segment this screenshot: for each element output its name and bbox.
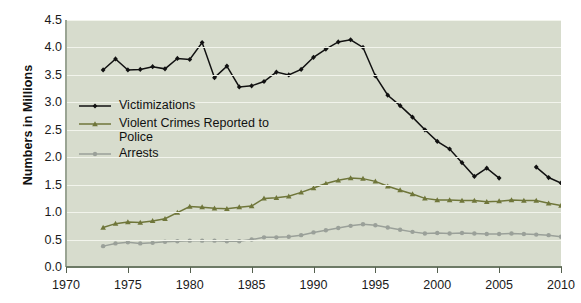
x-tick-mark: [561, 267, 562, 273]
x-tick-label: 2000: [423, 278, 451, 292]
legend-label: Violent Crimes Reported to Police: [119, 116, 284, 144]
x-tick-label: 1995: [361, 278, 389, 292]
x-tick-mark: [252, 267, 253, 273]
x-tick-label: 2005: [485, 278, 513, 292]
x-tick-mark: [499, 267, 500, 273]
x-tick-mark: [375, 267, 376, 273]
x-tick-label: 2010: [547, 278, 575, 292]
x-tick-label: 1980: [176, 278, 204, 292]
x-tick-mark: [128, 267, 129, 273]
chart-root: Numbers in Millions 0.00.51.01.52.02.53.…: [0, 0, 581, 303]
legend-swatch-icon: [78, 98, 112, 114]
x-tick-label: 1985: [238, 278, 266, 292]
legend-label: Victimizations: [119, 98, 195, 112]
data-point-marker: [93, 103, 98, 108]
x-tick-mark: [437, 267, 438, 273]
legend-item: Arrests: [78, 146, 284, 162]
legend-label: Arrests: [119, 146, 159, 160]
x-tick-label: 1990: [300, 278, 328, 292]
legend-item: Violent Crimes Reported to Police: [78, 116, 284, 144]
x-tick-mark: [190, 267, 191, 273]
x-tick-label: 1970: [52, 278, 80, 292]
x-tick-label: 1975: [114, 278, 142, 292]
chart-legend: VictimizationsViolent Crimes Reported to…: [78, 98, 284, 164]
legend-item: Victimizations: [78, 98, 284, 114]
legend-swatch-icon: [78, 116, 112, 132]
data-point-marker: [93, 152, 97, 156]
x-tick-mark: [314, 267, 315, 273]
x-tick-mark: [66, 267, 67, 273]
legend-swatch-icon: [78, 146, 112, 162]
